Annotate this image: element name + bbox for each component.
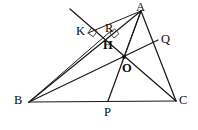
segment-A-to-K bbox=[88, 11, 141, 33]
point-label-O: O bbox=[122, 62, 132, 75]
side-AC bbox=[141, 11, 176, 101]
vertex-dots-group bbox=[122, 55, 126, 59]
geometry-canvas bbox=[0, 0, 198, 130]
geometry-diagram: A B C O H K R Q P bbox=[0, 0, 198, 130]
point-label-Q: Q bbox=[161, 33, 170, 46]
point-label-K: K bbox=[76, 25, 85, 38]
side-BC bbox=[29, 101, 176, 102]
point-label-A: A bbox=[136, 1, 145, 14]
segment-B-to-R bbox=[29, 30, 112, 102]
point-label-H: H bbox=[103, 39, 113, 52]
point-label-B: B bbox=[14, 94, 22, 107]
point-label-C: C bbox=[179, 94, 187, 107]
segments-group bbox=[29, 9, 176, 102]
point-label-P: P bbox=[104, 106, 111, 119]
point-O-dot bbox=[122, 55, 126, 59]
point-label-R: R bbox=[105, 22, 113, 35]
